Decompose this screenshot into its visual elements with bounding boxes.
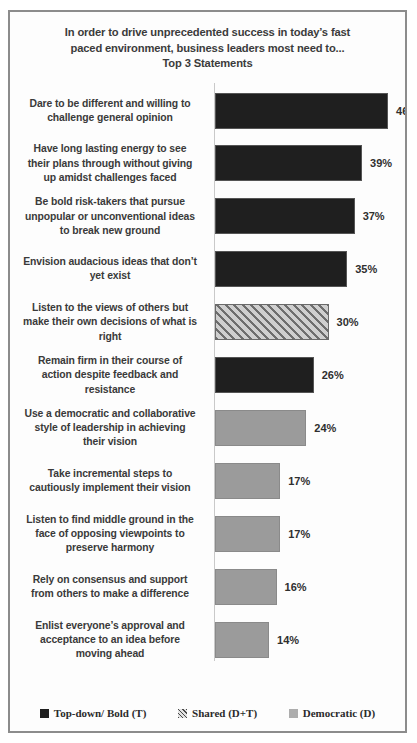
bar-wrapper: 37%	[215, 198, 385, 234]
bar-category-label-line: make their own decisions of what is	[12, 315, 208, 329]
bar-category-label-line: Remain firm in their course of	[12, 354, 208, 368]
bar-topdown[interactable]	[215, 145, 362, 181]
bar-category-label: Have long lasting energy to seetheir pla…	[12, 142, 208, 185]
bar-row: Enlist everyone’s approval andacceptance…	[10, 612, 405, 668]
bar-row: Be bold risk-takers that pursueunpopular…	[10, 188, 405, 244]
bar-row: Rely on consensus and supportfrom others…	[10, 559, 405, 615]
bar-value-label: 24%	[314, 422, 336, 434]
bar-category-label-line: action despite feedback and	[12, 368, 208, 382]
bar-topdown[interactable]	[215, 198, 355, 234]
bar-category-label: Be bold risk-takers that pursueunpopular…	[12, 195, 208, 238]
bar-category-label-line: challenge general opinion	[12, 111, 208, 125]
bar-category-label: Remain firm in their course ofaction des…	[12, 354, 208, 397]
bar-category-label-line: face of opposing viewpoints to	[12, 527, 208, 541]
legend-item-shared[interactable]: Shared (D+T)	[178, 707, 257, 719]
legend-label: Democratic (D)	[303, 707, 375, 719]
bar-value-label: 14%	[277, 634, 299, 646]
chart-legend: Top-down/ Bold (T)Shared (D+T)Democratic…	[10, 707, 405, 719]
legend-item-topdown[interactable]: Top-down/ Bold (T)	[40, 707, 147, 719]
bar-category-label-line: Dare to be different and willing to	[12, 96, 208, 110]
bar-category-label-line: unpopular or unconventional ideas	[12, 209, 208, 223]
bar-value-label: 35%	[355, 263, 377, 275]
bar-wrapper: 30%	[215, 304, 359, 340]
bar-value-label: 17%	[288, 528, 310, 540]
bar-wrapper: 46%	[215, 93, 407, 129]
chart-frame: In order to drive unprecedented success …	[8, 10, 407, 733]
bar-category-label-line: cautiously implement their vision	[12, 481, 208, 495]
legend-label: Shared (D+T)	[192, 707, 257, 719]
bar-topdown[interactable]	[215, 357, 314, 393]
bar-category-label-line: resistance	[12, 382, 208, 396]
legend-swatch-icon	[289, 709, 298, 718]
bar-topdown[interactable]	[215, 93, 388, 129]
bar-value-label: 46%	[396, 105, 407, 117]
chart-title-line-2: paced environment, business leaders most…	[30, 41, 385, 57]
chart-title-line-3: Top 3 Statements	[30, 56, 385, 72]
bar-democratic[interactable]	[215, 516, 280, 552]
bar-row: Listen to the views of others butmake th…	[10, 294, 405, 350]
bar-category-label-line: Take incremental steps to	[12, 467, 208, 481]
bar-wrapper: 39%	[215, 145, 392, 181]
bar-category-label: Take incremental steps tocautiously impl…	[12, 467, 208, 496]
bar-category-label-line: Be bold risk-takers that pursue	[12, 195, 208, 209]
bar-value-label: 17%	[288, 475, 310, 487]
bar-category-label: Enlist everyone’s approval andacceptance…	[12, 618, 208, 661]
bar-row: Dare to be different and willing tochall…	[10, 83, 405, 139]
bar-value-label: 16%	[285, 581, 307, 593]
bar-value-label: 39%	[370, 157, 392, 169]
bar-category-label-line: Envision audacious ideas that don’t	[12, 255, 208, 269]
bar-category-label: Listen to the views of others butmake th…	[12, 301, 208, 344]
bar-democratic[interactable]	[215, 569, 277, 605]
chart-title-line-1: In order to drive unprecedented success …	[30, 25, 385, 41]
bar-category-label-line: Enlist everyone’s approval and	[12, 618, 208, 632]
bar-category-label-line: style of leadership in achieving	[12, 421, 208, 435]
bar-democratic[interactable]	[215, 622, 269, 658]
bar-category-label-line: up amidst challenges faced	[12, 171, 208, 185]
bar-category-label: Dare to be different and willing tochall…	[12, 96, 208, 125]
bar-democratic[interactable]	[215, 410, 306, 446]
bar-wrapper: 17%	[215, 516, 310, 552]
bar-wrapper: 35%	[215, 251, 377, 287]
bar-category-label-line: Rely on consensus and support	[12, 572, 208, 586]
bar-wrapper: 17%	[215, 463, 310, 499]
bar-row: Remain firm in their course ofaction des…	[10, 347, 405, 403]
bar-row: Use a democratic and collaborativestyle …	[10, 400, 405, 456]
bar-row: Have long lasting energy to seetheir pla…	[10, 135, 405, 191]
bar-democratic[interactable]	[215, 463, 280, 499]
legend-item-democratic[interactable]: Democratic (D)	[289, 707, 375, 719]
bar-category-label-line: Listen to the views of others but	[12, 301, 208, 315]
bar-row: Listen to find middle ground in theface …	[10, 506, 405, 562]
bar-wrapper: 14%	[215, 622, 299, 658]
bar-wrapper: 16%	[215, 569, 307, 605]
bar-category-label-line: from others to make a difference	[12, 587, 208, 601]
bar-value-label: 26%	[322, 369, 344, 381]
chart-title: In order to drive unprecedented success …	[10, 25, 405, 72]
bar-row: Envision audacious ideas that don’tyet e…	[10, 241, 405, 297]
bar-category-label-line: to break new ground	[12, 223, 208, 237]
bar-shared[interactable]	[215, 304, 329, 340]
bar-category-label-line: acceptance to an idea before	[12, 632, 208, 646]
bar-category-label: Envision audacious ideas that don’tyet e…	[12, 255, 208, 284]
bar-category-label-line: their plans through without giving	[12, 156, 208, 170]
legend-label: Top-down/ Bold (T)	[54, 707, 147, 719]
bar-category-label-line: Listen to find middle ground in the	[12, 512, 208, 526]
bar-category-label-line: Use a democratic and collaborative	[12, 406, 208, 420]
legend-swatch-icon	[178, 709, 187, 718]
bar-wrapper: 26%	[215, 357, 344, 393]
bar-value-label: 37%	[363, 210, 385, 222]
bar-value-label: 30%	[337, 316, 359, 328]
bar-category-label-line: right	[12, 329, 208, 343]
plot-area: Dare to be different and willing tochall…	[10, 83, 405, 668]
bar-category-label-line: moving ahead	[12, 647, 208, 661]
bar-wrapper: 24%	[215, 410, 336, 446]
bar-category-label-line: yet exist	[12, 269, 208, 283]
bar-category-label: Rely on consensus and supportfrom others…	[12, 572, 208, 601]
bar-category-label: Listen to find middle ground in theface …	[12, 512, 208, 555]
bar-category-label-line: preserve harmony	[12, 541, 208, 555]
bar-topdown[interactable]	[215, 251, 347, 287]
bar-category-label-line: Have long lasting energy to see	[12, 142, 208, 156]
bar-category-label: Use a democratic and collaborativestyle …	[12, 406, 208, 449]
legend-swatch-icon	[40, 709, 49, 718]
bar-row: Take incremental steps tocautiously impl…	[10, 453, 405, 509]
bar-category-label-line: their vision	[12, 435, 208, 449]
